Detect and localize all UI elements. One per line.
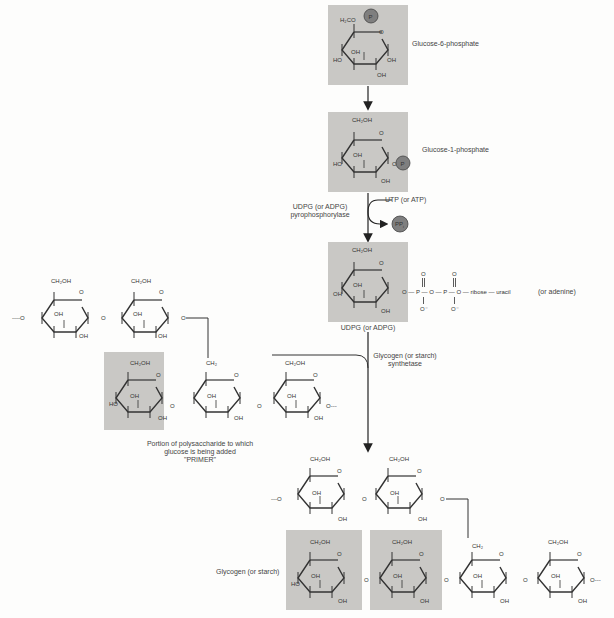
svg-text:O: O — [156, 372, 161, 378]
svg-text:OH: OH — [338, 598, 347, 604]
svg-text:OH: OH — [381, 178, 390, 184]
primer-line-3: "PRIMER" — [130, 456, 270, 464]
svg-text:O: O — [337, 468, 342, 474]
glycogen-label: Glycogen (or starch) — [216, 568, 279, 576]
svg-text:HO: HO — [333, 161, 342, 167]
svg-text:P: P — [401, 161, 405, 167]
svg-text:CH₂OH: CH₂OH — [285, 360, 305, 366]
synthetase-line-1: Glycogen (or starch) — [372, 352, 438, 360]
glycogen-product-chain: CH₂OH O ---O OH OH O CH₂OH O OH OH O CH₂… — [271, 456, 601, 610]
svg-text:HO: HO — [109, 401, 118, 407]
svg-text:O — P — O — P — O — ribose — u: O — P — O — P — O — ribose — uracil — [402, 289, 510, 295]
svg-text:O: O — [234, 372, 239, 378]
svg-text:CH₂OH: CH₂OH — [352, 247, 372, 253]
svg-text:O: O — [452, 271, 457, 277]
primer-upper-chain: CH₂OH O ----O OH OH O CH₂OH O OH OH O — [12, 278, 208, 358]
udpg-molecule: CH₂OH O OH OH OH O — P — O — P — O — rib… — [328, 242, 510, 322]
svg-text:P: P — [369, 14, 373, 20]
svg-text:OH: OH — [390, 490, 399, 496]
svg-text:OH: OH — [311, 573, 320, 579]
udpg-label: UDPG (or ADPG) — [330, 324, 406, 332]
svg-text:O: O — [159, 289, 164, 295]
svg-text:O: O — [79, 289, 84, 295]
svg-text:O: O — [499, 551, 504, 557]
svg-text:OH: OH — [418, 516, 427, 522]
svg-text:O: O — [577, 551, 582, 557]
svg-text:O: O — [181, 315, 186, 321]
svg-text:O: O — [257, 403, 262, 409]
svg-text:OH: OH — [381, 308, 390, 314]
svg-text:OH: OH — [473, 573, 482, 579]
svg-text:OH: OH — [54, 311, 63, 317]
svg-text:CH₂OH: CH₂OH — [51, 278, 71, 284]
primer-line-1: Portion of polysaccharide to which — [130, 440, 270, 448]
primer-line-2: glucose is being added — [130, 448, 270, 456]
glucose-1-phosphate-label: Glucose-1-phosphate — [422, 146, 489, 154]
glucose-1-phosphate-molecule: CH₂OH O HO OH O OH P — [328, 112, 410, 192]
svg-text:O: O — [444, 577, 449, 583]
svg-text:CH₂OH: CH₂OH — [352, 117, 372, 123]
enzyme-line-1: UDPG (or ADPG) — [286, 203, 354, 211]
svg-text:OH: OH — [420, 598, 429, 604]
adenine-label: (or adenine) — [538, 288, 576, 296]
pyrophosphorylase-label: UDPG (or ADPG) pyrophosphorylase — [286, 203, 354, 219]
glucose-6-phosphate-label: Glucose-6-phosphate — [412, 40, 479, 48]
svg-text:OH: OH — [351, 49, 360, 55]
svg-text:OH: OH — [133, 311, 142, 317]
svg-text:OH: OH — [287, 393, 296, 399]
svg-text:OH: OH — [353, 282, 362, 288]
primer-label: Portion of polysaccharide to which gluco… — [130, 440, 270, 464]
svg-text:PP: PP — [395, 221, 403, 227]
svg-text:----O: ----O — [12, 315, 25, 321]
svg-text:OH: OH — [578, 598, 587, 604]
svg-text:OH: OH — [79, 333, 88, 339]
svg-text:O: O — [523, 577, 528, 583]
svg-text:O: O — [421, 271, 426, 277]
svg-text:O: O — [313, 372, 318, 378]
utp-label: UTP (or ATP) — [385, 196, 426, 204]
primer-lower-chain: CH₂OH O HO OH OH O CH₂ O OH OH O CH₂OH O… — [104, 352, 337, 430]
svg-text:O: O — [364, 577, 369, 583]
synthetase-label: Glycogen (or starch) synthetase — [372, 352, 438, 368]
svg-text:OH: OH — [234, 415, 243, 421]
svg-text:O: O — [170, 403, 175, 409]
svg-text:OH: OH — [500, 598, 509, 604]
svg-text:O: O — [440, 496, 445, 502]
svg-text:HO: HO — [333, 57, 342, 63]
svg-text:OH: OH — [353, 152, 362, 158]
svg-text:CH₂OH: CH₂OH — [392, 539, 412, 545]
svg-text:OH: OH — [377, 72, 386, 78]
svg-text:O⁻: O⁻ — [451, 306, 459, 312]
svg-text:CH₂OH: CH₂OH — [389, 456, 409, 462]
svg-text:H₂CO: H₂CO — [340, 17, 356, 23]
svg-text:OH: OH — [312, 490, 321, 496]
svg-text:O: O — [379, 29, 384, 35]
svg-text:O: O — [101, 315, 106, 321]
svg-text:OH: OH — [338, 516, 347, 522]
svg-text:CH₂OH: CH₂OH — [310, 539, 330, 545]
svg-text:OH: OH — [158, 333, 167, 339]
svg-text:O---: O--- — [590, 577, 601, 583]
svg-text:O: O — [362, 496, 367, 502]
svg-text:OH: OH — [387, 57, 396, 63]
svg-text:O---: O--- — [326, 403, 337, 409]
svg-text:CH₂OH: CH₂OH — [131, 278, 151, 284]
svg-text:O: O — [379, 130, 384, 136]
svg-text:CH₂OH: CH₂OH — [548, 539, 568, 545]
pathway-diagram: H₂CO O HO OH OH OH P CH₂OH O HO OH O OH … — [0, 0, 614, 618]
svg-text:O: O — [379, 260, 384, 266]
svg-text:CH₂OH: CH₂OH — [130, 360, 150, 366]
svg-text:CH₂: CH₂ — [206, 360, 218, 366]
svg-text:OH: OH — [158, 415, 167, 421]
glucose-6-phosphate-molecule: H₂CO O HO OH OH OH P — [328, 5, 408, 85]
svg-text:OH: OH — [333, 291, 342, 297]
enzyme-line-2: pyrophosphorylase — [286, 211, 354, 219]
svg-text:OH: OH — [393, 573, 402, 579]
svg-text:CH₂OH: CH₂OH — [310, 456, 330, 462]
svg-text:CH₂: CH₂ — [472, 543, 484, 549]
svg-text:O: O — [419, 551, 424, 557]
svg-text:---O: ---O — [271, 496, 282, 502]
svg-text:HO: HO — [291, 581, 300, 587]
svg-text:O: O — [417, 468, 422, 474]
svg-text:OH: OH — [130, 393, 139, 399]
